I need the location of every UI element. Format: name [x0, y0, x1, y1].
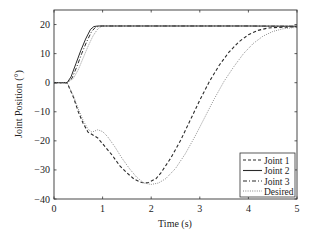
legend: Joint 1 Joint 2 Joint 3 Desired: [240, 153, 295, 197]
y-axis-label: Joint Position (°): [13, 70, 25, 138]
x-tick-label: 5: [295, 203, 300, 214]
x-tick-label: 4: [246, 203, 251, 214]
x-tick-label: 2: [149, 203, 154, 214]
legend-label-joint-3: Joint 3: [264, 177, 290, 187]
y-tick-label: −20: [34, 135, 50, 146]
y-tick-label: 10: [40, 48, 50, 59]
series-joint-2: [54, 26, 297, 83]
x-tick-label: 1: [100, 203, 105, 214]
joint-position-chart: 012345−40−30−20−1001020 Time (s) Joint P…: [0, 0, 313, 240]
series-desired-upper: [54, 26, 297, 83]
y-tick-label: −10: [34, 106, 50, 117]
x-axis-label: Time (s): [158, 218, 192, 230]
y-tick-label: 0: [45, 77, 50, 88]
y-tick-label: 20: [40, 19, 50, 30]
x-tick-label: 3: [197, 203, 202, 214]
legend-label-desired: Desired: [264, 187, 294, 197]
y-tick-label: −40: [34, 194, 50, 205]
legend-label-joint-1: Joint 1: [264, 156, 290, 166]
y-tick-label: −30: [34, 164, 50, 175]
legend-label-joint-2: Joint 2: [264, 166, 290, 176]
x-tick-label: 0: [52, 203, 57, 214]
series-joint-3: [54, 26, 297, 83]
